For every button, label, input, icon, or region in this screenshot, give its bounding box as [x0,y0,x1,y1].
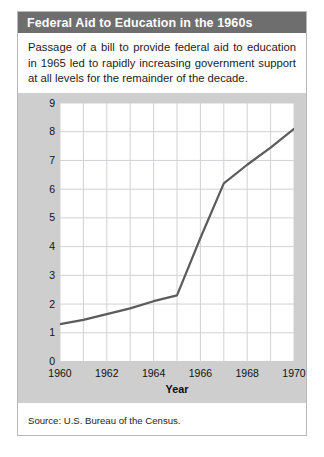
y-tick-label: 4 [49,240,55,252]
x-axis-label: Year [60,383,294,395]
x-tick-label: 1960 [48,367,71,379]
y-tick-label: 1 [49,326,55,338]
y-tick-label: 2 [49,298,55,310]
x-tick-label: 1966 [189,367,212,379]
plot-wrapper: 0123456789 196019621964196619681970 [60,103,294,362]
y-tick-label: 8 [49,125,55,137]
chart-panel: Billions of dollars 0123456789 196019621… [18,93,306,404]
plot-area [60,103,294,362]
caption-text: Passage of a bill to provide federal aid… [28,40,296,87]
y-tick-label: 9 [49,97,55,109]
y-tick-label: 6 [49,183,55,195]
vertical-gridlines [60,103,294,362]
figure-caption: Passage of a bill to provide federal aid… [18,33,306,93]
figure-title-bar: Federal Aid to Education in the 1960s [18,12,306,33]
figure-card: Federal Aid to Education in the 1960s Pa… [17,11,307,436]
x-tick-label: 1968 [236,367,259,379]
y-tick-label: 7 [49,154,55,166]
x-tick-label: 1962 [95,367,118,379]
y-tick-label: 5 [49,211,55,223]
source-text: Source: U.S. Bureau of the Census. [28,415,181,426]
line-chart-svg [60,103,294,362]
source-note: Source: U.S. Bureau of the Census. [18,403,306,435]
page-title: Federal Aid to Education in the 1960s [27,16,253,30]
x-tick-label: 1964 [142,367,165,379]
y-tick-label: 3 [49,269,55,281]
x-tick-label: 1970 [282,367,305,379]
y-tick-label: 0 [49,355,55,367]
